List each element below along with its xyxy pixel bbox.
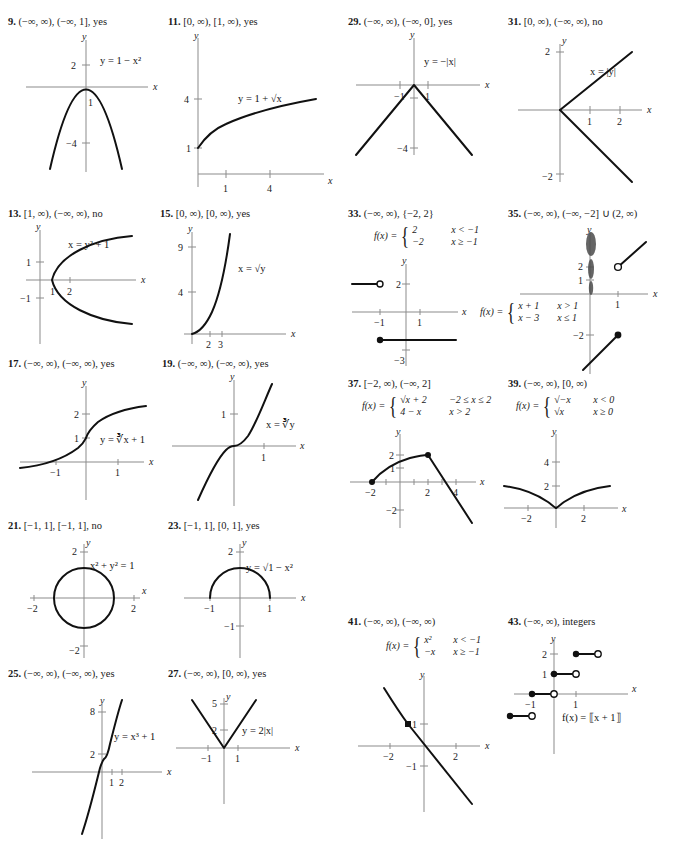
exercise-35-ytick-1: 1 <box>578 275 583 286</box>
exercise-21-x-axis-label: x <box>141 585 147 596</box>
exercise-33-number: 33. <box>348 208 361 219</box>
exercise-31: 31. [0, ∞), (−∞, ∞), no x y 2 −2 1 2 x =… <box>508 16 603 28</box>
exercise-29-x-axis-label: x <box>484 79 490 90</box>
exercise-27-y-axis-label: y <box>225 691 231 702</box>
exercise-39-xtick-2: 2 <box>581 513 586 524</box>
exercise-23-equation: y = √1 − x² <box>246 562 293 573</box>
exercise-9-graph: x y 2 −4 1 y = 1 − x² <box>18 32 173 177</box>
exercise-17-ytick-2: 2 <box>74 409 79 420</box>
brace-icon: { <box>413 636 421 656</box>
exercise-13-x-axis-label: x <box>140 274 146 285</box>
exercise-9-answer: (−∞, ∞), (−∞, 1], yes <box>19 16 108 27</box>
brace-icon: { <box>507 302 515 322</box>
exercise-43-ytick-2: 2 <box>542 649 547 660</box>
exercise-37-x-axis-label: x <box>479 476 485 487</box>
exercise-19-ytick-1: 1 <box>221 409 226 420</box>
exercise-41-header: 41. (−∞, ∞), (−∞, ∞) <box>348 616 435 628</box>
exercise-21-answer: [−1, 1], [−1, 1], no <box>24 520 102 531</box>
exercise-17-xtick-m1: −1 <box>50 467 61 478</box>
exercise-41-pw-val-0: x² <box>424 634 446 646</box>
exercise-9-ytick-m4: −4 <box>66 138 77 149</box>
exercise-31-y-axis-label: y <box>561 35 567 46</box>
exercise-33-pw-cond-0: x < −1 <box>451 224 479 236</box>
exercise-27: 27. (−∞, ∞), [0, ∞), yes x y 5 2 −1 1 y … <box>168 668 266 680</box>
exercise-9-equation: y = 1 − x² <box>100 55 141 66</box>
exercise-23-y-axis-label: y <box>241 537 247 548</box>
exercise-33-ytick-m3: −3 <box>394 355 405 366</box>
exercise-25-ytick-2: 2 <box>90 749 95 760</box>
exercise-21-header: 21. [−1, 1], [−1, 1], no <box>8 520 102 532</box>
exercise-41-x-axis-label: x <box>484 740 490 751</box>
exercise-29-graph: x y −1 1 −4 y = −|x| <box>352 30 512 180</box>
exercise-15-ytick-9: 9 <box>178 242 183 253</box>
exercise-41-ytick-m1: −1 <box>406 761 417 772</box>
exercise-37-pw-val-0: √x + 2 <box>400 394 442 406</box>
exercise-43-xtick-m1: −1 <box>525 699 536 710</box>
exercise-23: 23. [−1, 1], [0, 1], yes x y 2 −1 −1 1 y… <box>168 520 260 532</box>
exercise-19-equation: x = ∛y <box>266 418 295 430</box>
exercise-19-graph: x y 1 1 x = ∛y <box>168 372 328 512</box>
exercise-27-xtick-1: 1 <box>235 753 240 764</box>
exercise-35-fx-label: f(x) = <box>480 306 503 318</box>
exercise-27-header: 27. (−∞, ∞), [0, ∞), yes <box>168 668 266 680</box>
exercise-37-ytick-2: 2 <box>389 450 394 461</box>
exercise-29-answer: (−∞, ∞), (−∞, 0], yes <box>364 16 453 27</box>
exercise-41-y-axis-label: y <box>419 669 425 680</box>
exercise-17: 17. (−∞, ∞), (−∞, ∞), yes x y 2 1 −1 1 y… <box>8 358 115 370</box>
exercise-9-number: 9. <box>8 16 16 27</box>
exercise-23-x-axis-label: x <box>300 592 306 603</box>
exercise-37-header: 37. [−2, ∞), (−∞, 2] <box>348 378 431 390</box>
exercise-13-xtick-2: 2 <box>67 286 72 297</box>
exercise-19-x-axis-label: x <box>299 440 305 451</box>
exercise-21-xtick-m2: −2 <box>27 603 38 614</box>
exercise-33-y-axis-label: y <box>401 255 407 266</box>
exercise-21: 21. [−1, 1], [−1, 1], no x y 2 −2 −2 2 x… <box>8 520 102 532</box>
exercise-39-x-axis-label: x <box>621 503 627 514</box>
exercise-27-answer: (−∞, ∞), [0, ∞), yes <box>184 668 267 679</box>
exercise-31-graph: x y 2 −2 1 2 x = |y| <box>512 30 672 200</box>
answer-key-page: 9. (−∞, ∞), (−∞, 1], yes x y 2 −4 1 y = … <box>0 0 675 844</box>
exercise-41-fx-label: f(x) = <box>386 640 409 652</box>
exercise-29: 29. (−∞, ∞), (−∞, 0], yes x y −1 1 −4 y … <box>348 16 452 28</box>
exercise-29-header: 29. (−∞, ∞), (−∞, 0], yes <box>348 16 452 28</box>
exercise-35-piecewise: f(x) = { x + 1x > 1 x − 3x ≤ 1 <box>480 300 578 323</box>
exercise-39-ytick-2: 2 <box>544 481 549 492</box>
exercise-13-header: 13. [1, ∞), (−∞, ∞), no <box>8 208 103 220</box>
exercise-33-xtick-m1: −1 <box>374 317 385 328</box>
exercise-17-x-axis-label: x <box>148 456 154 467</box>
exercise-39-xtick-m2: −2 <box>521 513 532 524</box>
exercise-13-number: 13. <box>8 208 21 219</box>
exercise-33: 33. (−∞, ∞), {−2, 2} f(x) = { 2x < −1 −2… <box>348 208 434 220</box>
exercise-39-piecewise: f(x) = { √−xx < 0 √xx ≥ 0 <box>516 394 614 417</box>
exercise-43-ytick-1: 1 <box>542 669 547 680</box>
exercise-33-piecewise: f(x) = { 2x < −1 −2x ≥ −1 <box>374 224 479 247</box>
exercise-25-xtick-1: 1 <box>109 777 114 788</box>
exercise-41-pw-cond-0: x < −1 <box>453 634 481 646</box>
exercise-37-xtick-m2: −2 <box>365 487 376 498</box>
exercise-43-answer: (−∞, ∞), integers <box>524 616 596 627</box>
exercise-33-pw-val-1: −2 <box>412 236 444 248</box>
exercise-9-y-axis-label: y <box>81 31 87 42</box>
exercise-21-ytick-2: 2 <box>72 546 77 557</box>
exercise-25-number: 25. <box>8 668 21 679</box>
exercise-15: 15. [0, ∞), [0, ∞), yes x y 9 4 2 3 x = … <box>160 208 250 220</box>
exercise-37: 37. [−2, ∞), (−∞, 2] f(x) = { √x + 2−2 ≤… <box>348 378 431 390</box>
exercise-39-fx-label: f(x) = <box>516 400 539 412</box>
exercise-41-piecewise: f(x) = { x²x < −1 −xx ≥ −1 <box>386 634 481 657</box>
exercise-41-xtick-2: 2 <box>453 751 458 762</box>
exercise-43-xtick-1: 1 <box>573 699 578 710</box>
exercise-41-pw-cond-1: x ≥ −1 <box>453 646 480 658</box>
exercise-37-graph: x y 2 1 −2 −2 2 4 <box>348 424 518 534</box>
exercise-35-header: 35. (−∞, ∞), (−∞, −2] ∪ (2, ∞) <box>508 208 637 220</box>
exercise-33-pw-cond-1: x ≥ −1 <box>451 236 478 248</box>
exercise-15-header: 15. [0, ∞), [0, ∞), yes <box>160 208 250 220</box>
exercise-13-equation: x = y² + 1 <box>68 239 109 250</box>
exercise-35: 35. (−∞, ∞), (−∞, −2] ∪ (2, ∞) x y 2 1 −… <box>508 208 637 220</box>
exercise-25-xtick-2: 2 <box>119 777 124 788</box>
exercise-13-graph: x y 1 −1 1 2 x = y² + 1 <box>14 222 174 350</box>
exercise-37-number: 37. <box>348 378 361 389</box>
exercise-13: 13. [1, ∞), (−∞, ∞), no x y 1 −1 1 2 x =… <box>8 208 103 220</box>
brace-icon: { <box>543 396 551 416</box>
exercise-11-ytick-4: 4 <box>184 94 189 105</box>
exercise-43-number: 43. <box>508 616 521 627</box>
